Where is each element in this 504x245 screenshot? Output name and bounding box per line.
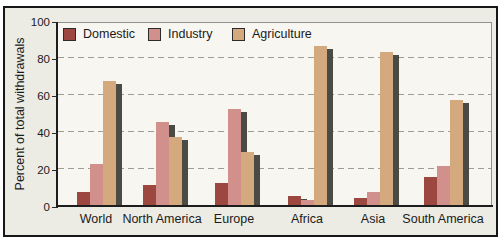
y-tick-mark-60 xyxy=(52,96,57,97)
gridline-20 xyxy=(58,168,491,169)
bar-shadow-agriculture-europe xyxy=(254,155,260,208)
legend-label-agriculture: Agriculture xyxy=(252,27,312,41)
bar-domestic-south-america xyxy=(424,177,437,207)
y-tick-label-60: 60 xyxy=(5,89,50,103)
bar-agriculture-asia xyxy=(380,52,393,207)
y-tick-mark-40 xyxy=(52,133,57,134)
x-axis-line xyxy=(56,205,493,207)
bar-shadow-agriculture-south-america xyxy=(463,103,469,207)
y-tick-label-20: 20 xyxy=(5,163,50,177)
bar-group-world xyxy=(77,22,123,207)
bar-agriculture-world xyxy=(103,81,116,207)
y-tick-mark-20 xyxy=(52,170,57,171)
bar-domestic-north-america xyxy=(143,185,156,207)
bar-domestic-europe xyxy=(215,183,228,207)
bar-group-north-america xyxy=(143,22,189,207)
bar-group-europe xyxy=(215,22,261,207)
legend-label-domestic: Domestic xyxy=(83,27,135,41)
legend-swatch-domestic xyxy=(63,28,76,41)
gridline-60 xyxy=(58,94,491,95)
bar-industry-europe xyxy=(228,109,241,207)
bar-group-africa xyxy=(288,22,334,207)
bar-shadow-agriculture-asia xyxy=(393,55,399,207)
category-label-south-america: South America xyxy=(383,212,498,226)
y-tick-mark-0 xyxy=(52,207,57,208)
y-axis-line xyxy=(56,22,58,208)
legend-item-industry: Industry xyxy=(148,27,212,41)
bar-industry-south-america xyxy=(437,166,450,207)
bar-shadow-agriculture-africa xyxy=(327,49,333,207)
legend-item-domestic: Domestic xyxy=(63,27,135,41)
bar-industry-north-america xyxy=(156,122,169,207)
figure: Percent of total withdrawals 02040608010… xyxy=(0,0,504,245)
legend-label-industry: Industry xyxy=(168,27,212,41)
bar-industry-world xyxy=(90,164,103,207)
bar-shadow-agriculture-north-america xyxy=(182,140,188,207)
gridline-80 xyxy=(58,57,491,58)
gridline-40 xyxy=(58,131,491,132)
chart-frame: Percent of total withdrawals 02040608010… xyxy=(3,6,498,237)
bar-group-south-america xyxy=(424,22,470,207)
y-tick-label-100: 100 xyxy=(5,15,50,29)
y-tick-mark-80 xyxy=(52,59,57,60)
y-tick-label-80: 80 xyxy=(5,52,50,66)
y-tick-label-40: 40 xyxy=(5,126,50,140)
bar-group-asia xyxy=(354,22,400,207)
legend-swatch-agriculture xyxy=(232,28,245,41)
bar-agriculture-europe xyxy=(241,152,254,208)
legend-swatch-industry xyxy=(148,28,161,41)
bar-shadow-agriculture-world xyxy=(116,84,122,207)
y-tick-mark-100 xyxy=(52,22,57,23)
bar-agriculture-north-america xyxy=(169,137,182,207)
legend-item-agriculture: Agriculture xyxy=(232,27,312,41)
bar-agriculture-africa xyxy=(314,46,327,207)
bar-agriculture-south-america xyxy=(450,100,463,207)
